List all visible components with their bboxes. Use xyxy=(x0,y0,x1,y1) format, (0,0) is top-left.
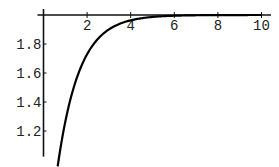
y-tick-label: 1.4 xyxy=(16,95,41,111)
x-tick-label: 8 xyxy=(214,18,222,34)
tick-labels: 2468101.21.41.61.8 xyxy=(16,18,270,140)
chart: 2468101.21.41.61.8 xyxy=(0,0,279,167)
y-tick-label: 1.6 xyxy=(16,66,41,82)
y-tick-label: 1.8 xyxy=(16,37,41,53)
x-tick-label: 6 xyxy=(170,18,178,34)
ticks xyxy=(44,12,262,131)
series xyxy=(58,15,262,166)
series-line-curve xyxy=(58,15,262,166)
axes xyxy=(38,9,272,157)
x-tick-label: 10 xyxy=(253,18,270,34)
x-tick-label: 2 xyxy=(83,18,91,34)
y-tick-label: 1.2 xyxy=(16,124,41,140)
